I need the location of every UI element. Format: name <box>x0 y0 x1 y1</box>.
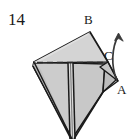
vertex-label-b: B <box>84 13 93 26</box>
vertex-label-c: C <box>104 49 113 62</box>
origami-figure-panel: 14 B C A <box>0 0 139 139</box>
item-number: 14 <box>8 11 25 28</box>
vertex-label-a: A <box>117 83 126 96</box>
rotation-arrow-head <box>115 33 124 41</box>
rotation-arrow-shaft <box>113 35 119 79</box>
